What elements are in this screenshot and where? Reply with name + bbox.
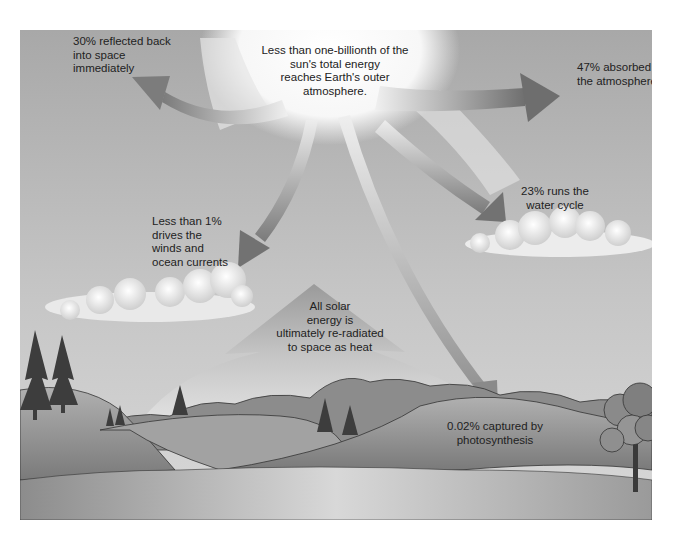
lake [20, 467, 652, 520]
photosynthesis-label-line: 0.02% captured by [440, 420, 550, 434]
winds-label-line: drives the [152, 229, 228, 243]
reflected-label-line: immediately [73, 62, 171, 76]
reradiation-label-line: ultimately re-radiated [270, 327, 390, 341]
reflected-label-line: into space [73, 49, 171, 63]
photosynthesis-label-line: photosynthesis [440, 434, 550, 448]
sun-label-line: atmosphere. [235, 85, 435, 99]
water-cycle-label: 23% runs the water cycle [510, 185, 600, 212]
scene-illustration [20, 30, 652, 520]
reradiation-label-line: All solar [270, 300, 390, 314]
absorbed-label: 47% absorbed by the atmosphere [577, 61, 652, 88]
diagram-frame: Less than one-billionth of the sun's tot… [20, 30, 652, 520]
absorbed-label-line: 47% absorbed by [577, 61, 652, 75]
reflected-label: 30% reflected back into space immediatel… [73, 35, 171, 76]
reradiation-label-line: to space as heat [270, 341, 390, 355]
sun-label-line: sun's total energy [235, 58, 435, 72]
winds-label-line: ocean currents [152, 256, 228, 270]
absorbed-label-line: the atmosphere [577, 75, 652, 89]
reradiation-label: All solar energy is ultimately re-radiat… [270, 300, 390, 354]
water-cycle-label-line: 23% runs the [510, 185, 600, 199]
reflected-label-line: 30% reflected back [73, 35, 171, 49]
photosynthesis-label: 0.02% captured by photosynthesis [440, 420, 550, 447]
sun-label: Less than one-billionth of the sun's tot… [235, 44, 435, 98]
winds-label-line: Less than 1% [152, 215, 228, 229]
winds-label: Less than 1% drives the winds and ocean … [152, 215, 228, 269]
winds-label-line: winds and [152, 242, 228, 256]
sun-label-line: Less than one-billionth of the [235, 44, 435, 58]
sun-label-line: reaches Earth's outer [235, 71, 435, 85]
reradiation-label-line: energy is [270, 314, 390, 328]
water-cycle-label-line: water cycle [510, 199, 600, 213]
